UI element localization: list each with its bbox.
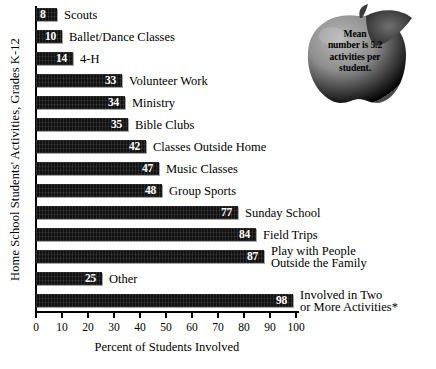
bar-value-label: 34 — [108, 97, 119, 109]
bar-value-label: 77 — [221, 207, 232, 219]
x-tick-label-100: 100 — [281, 321, 311, 333]
x-tick-70 — [217, 311, 219, 318]
bar-row: 48Group Sports — [36, 184, 298, 197]
bar-row: 10Ballet/Dance Classes — [36, 30, 298, 43]
bar-value-label: 10 — [45, 31, 56, 43]
plot-area: 8Scouts10Ballet/Dance Classes144-H33Volu… — [36, 6, 298, 311]
bar-category-label: Ballet/Dance Classes — [69, 30, 175, 43]
bar-value-label: 42 — [129, 141, 140, 153]
bar-category-label: Music Classes — [166, 162, 238, 175]
bar-value-label: 33 — [105, 75, 116, 87]
x-tick-50 — [165, 311, 167, 318]
bar-value-label: 25 — [85, 273, 96, 285]
bar-value-label: 8 — [40, 9, 46, 21]
annotation-line-2: number is 5.2 — [312, 39, 398, 50]
bar-row: 8Scouts — [36, 8, 298, 21]
bar-value-label: 35 — [111, 119, 122, 131]
bar-category-label: 4-H — [80, 52, 99, 65]
y-axis-title: Home School Students' Activities, Grades… — [8, 7, 23, 313]
bar-category-label: Other — [109, 272, 137, 285]
bar — [36, 228, 256, 241]
bar — [36, 162, 159, 175]
bar-category-label: Scouts — [64, 8, 97, 21]
x-tick-90 — [269, 311, 271, 318]
bar-row: 84Field Trips — [36, 228, 298, 241]
x-tick-60 — [191, 311, 193, 318]
apple-annotation-text: Mean number is 5.2 activities per studen… — [312, 28, 398, 74]
bar-category-label: Classes Outside Home — [153, 140, 266, 153]
bar-value-label: 47 — [142, 163, 153, 175]
x-tick-30 — [113, 311, 115, 318]
x-tick-10 — [61, 311, 63, 318]
bar-row: 33Volunteer Work — [36, 74, 298, 87]
bar-category-label: Group Sports — [169, 184, 236, 197]
bar-category-label: Sunday School — [245, 206, 320, 219]
bar-category-label: Bible Clubs — [135, 118, 194, 131]
bar-category-label: Field Trips — [263, 228, 318, 241]
bar — [36, 206, 238, 219]
annotation-line-1: Mean — [312, 28, 398, 39]
bar-category-label: Volunteer Work — [129, 74, 208, 87]
bar-row: 47Music Classes — [36, 162, 298, 175]
x-axis: 0 10 20 30 40 50 60 70 80 90 100 — [36, 311, 298, 312]
apple-illustration: Mean number is 5.2 activities per studen… — [296, 2, 436, 106]
bar-row: 87Play with PeopleOutside the Family — [36, 250, 298, 263]
x-axis-line — [35, 311, 299, 313]
bar-category-label: Play with PeopleOutside the Family — [271, 244, 421, 268]
annotation-line-3: activities per — [312, 51, 398, 62]
bar — [36, 52, 73, 65]
bar-rows: 8Scouts10Ballet/Dance Classes144-H33Volu… — [36, 6, 298, 311]
bar — [36, 184, 162, 197]
bar-chart: Home School Students' Activities, Grades… — [0, 0, 436, 369]
x-tick-80 — [243, 311, 245, 318]
x-tick-20 — [87, 311, 89, 318]
bar-row: 35Bible Clubs — [36, 118, 298, 131]
bar-value-label: 87 — [247, 251, 258, 262]
bar-value-label: 98 — [276, 295, 287, 307]
x-tick-0 — [35, 311, 37, 318]
x-axis-title: Percent of Students Involved — [36, 340, 298, 355]
bar-row: 34Ministry — [36, 96, 298, 109]
bar-category-label-line: or More Activities* — [300, 301, 436, 313]
bar — [36, 250, 264, 263]
bar-category-label: Involved in Twoor More Activities* — [300, 288, 436, 312]
annotation-line-4: student. — [312, 62, 398, 73]
bar — [36, 294, 293, 307]
x-tick-100 — [295, 311, 297, 318]
bar-row: 98Involved in Twoor More Activities* — [36, 294, 298, 307]
bar-row: 77Sunday School — [36, 206, 298, 219]
bar-row: 42Classes Outside Home — [36, 140, 298, 153]
bar-row: 25Other — [36, 272, 298, 285]
bar-row: 144-H — [36, 52, 298, 65]
bar-category-label-line: Outside the Family — [271, 257, 421, 269]
bar-value-label: 14 — [56, 53, 67, 65]
bar-value-label: 84 — [239, 229, 250, 241]
bar-category-label: Ministry — [132, 96, 175, 109]
x-tick-40 — [139, 311, 141, 318]
bar-value-label: 48 — [145, 185, 156, 197]
